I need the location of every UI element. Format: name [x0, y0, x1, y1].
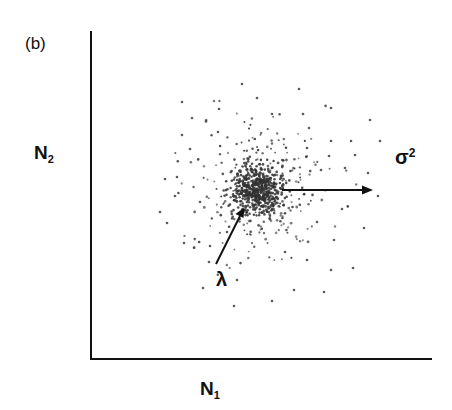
data-point [260, 186, 263, 189]
data-point [280, 224, 282, 226]
data-point [273, 212, 276, 215]
data-point [241, 192, 243, 194]
data-point [282, 159, 285, 162]
data-point [302, 239, 304, 241]
data-point [249, 206, 252, 209]
data-point [192, 186, 194, 188]
data-point [251, 162, 254, 165]
data-point [295, 206, 298, 209]
data-point [297, 181, 299, 183]
data-point [301, 187, 304, 190]
data-point [251, 242, 253, 244]
data-point [193, 246, 196, 249]
data-point [345, 169, 347, 171]
data-point [270, 139, 273, 142]
data-point [220, 161, 222, 163]
data-point [295, 235, 298, 238]
data-point [227, 152, 229, 154]
data-point [220, 206, 222, 208]
data-point [243, 150, 245, 152]
data-point [183, 242, 186, 245]
y-axis-label: N2 [34, 142, 54, 165]
data-point [235, 192, 238, 195]
data-point [258, 231, 260, 233]
data-point [263, 177, 266, 180]
data-point [203, 177, 205, 179]
data-point [249, 165, 252, 168]
data-point [287, 226, 289, 228]
data-point [355, 183, 357, 185]
data-point [293, 158, 295, 160]
data-point [258, 214, 261, 217]
data-point [275, 196, 278, 199]
data-point [235, 143, 238, 146]
data-point [290, 194, 292, 196]
data-point [216, 188, 218, 190]
data-point [283, 223, 285, 225]
data-point [242, 181, 245, 184]
data-point [272, 192, 275, 195]
data-point [377, 195, 380, 198]
data-point [242, 197, 245, 200]
data-point [203, 206, 206, 209]
data-point [242, 184, 245, 187]
data-point [230, 213, 233, 216]
data-point [308, 173, 310, 175]
data-point [285, 147, 288, 150]
data-point [316, 221, 319, 224]
data-point [256, 199, 259, 202]
data-point [344, 167, 347, 170]
data-point [255, 211, 257, 213]
data-point [285, 180, 287, 182]
data-point [260, 159, 263, 162]
data-point [247, 170, 249, 172]
data-point [241, 165, 244, 168]
data-point [290, 257, 292, 259]
data-point [299, 166, 301, 168]
data-point [249, 233, 251, 235]
data-point [217, 131, 220, 134]
data-point [222, 242, 224, 244]
data-point [261, 152, 263, 154]
data-point [288, 179, 291, 182]
data-point [254, 195, 257, 198]
data-point [232, 195, 235, 198]
data-point [273, 210, 275, 212]
data-point [311, 194, 314, 197]
data-point [255, 152, 257, 154]
data-point [243, 190, 246, 193]
data-point [280, 212, 283, 215]
data-point [280, 175, 283, 178]
data-point [159, 211, 162, 214]
data-point [270, 177, 272, 179]
data-point [285, 229, 287, 231]
data-point [276, 219, 279, 222]
data-point [232, 209, 235, 212]
data-point [313, 161, 315, 163]
data-point [225, 189, 228, 192]
data-point [253, 213, 256, 216]
data-point [274, 183, 277, 186]
data-point [276, 202, 279, 205]
data-point [276, 132, 278, 134]
data-point [248, 139, 250, 141]
data-point [309, 170, 312, 173]
data-point [299, 240, 302, 243]
data-point [246, 233, 248, 235]
data-point [268, 256, 270, 258]
data-point [262, 163, 265, 166]
data-point [260, 192, 262, 194]
data-point [310, 200, 312, 202]
data-point [267, 168, 270, 171]
sigma-squared-label: σ2 [395, 146, 415, 169]
data-point [255, 204, 257, 206]
data-point [253, 198, 256, 201]
data-point [256, 182, 259, 185]
data-point [206, 195, 209, 198]
data-point [189, 148, 192, 151]
scatter-points [159, 83, 382, 308]
data-point [252, 191, 255, 194]
data-point [241, 83, 244, 86]
data-point [271, 113, 274, 116]
data-point [292, 167, 295, 170]
